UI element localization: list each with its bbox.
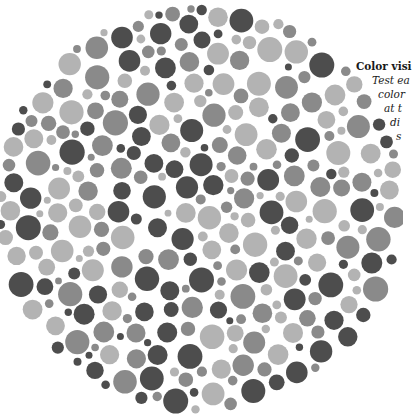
plate-dot bbox=[318, 111, 336, 129]
plate-dot bbox=[294, 256, 303, 265]
plate-dot bbox=[111, 158, 132, 179]
plate-dot bbox=[208, 7, 228, 27]
plate-dot bbox=[380, 136, 393, 149]
plate-dot bbox=[0, 230, 13, 245]
plate-dot bbox=[51, 240, 74, 263]
plate-dot bbox=[224, 398, 237, 411]
plate-dot bbox=[58, 282, 82, 306]
plate-dot bbox=[228, 376, 238, 386]
plate-dot bbox=[89, 285, 107, 303]
plate-dot bbox=[150, 23, 171, 44]
plate-dot bbox=[213, 73, 235, 95]
plate-dot bbox=[113, 370, 137, 394]
plate-dot bbox=[299, 274, 311, 286]
plate-dot bbox=[16, 215, 41, 240]
plate-dot bbox=[103, 110, 128, 135]
plate-dot bbox=[148, 345, 168, 365]
plate-dot bbox=[217, 162, 226, 171]
plate-dot bbox=[261, 284, 273, 296]
plate-dot bbox=[54, 79, 73, 98]
plate-dot bbox=[270, 258, 279, 267]
plate-dot bbox=[83, 246, 94, 257]
plate-dot bbox=[127, 146, 141, 160]
plate-dot bbox=[336, 236, 359, 259]
plate-dot bbox=[213, 261, 222, 270]
plate-dot bbox=[363, 276, 388, 301]
plate-dot bbox=[217, 277, 226, 286]
plate-dot bbox=[295, 127, 320, 152]
plate-dot bbox=[230, 245, 240, 255]
plate-dot bbox=[108, 201, 130, 223]
plate-dot bbox=[361, 253, 382, 274]
plate-dot bbox=[285, 40, 308, 63]
plate-dot bbox=[86, 352, 93, 359]
plate-dot bbox=[174, 114, 183, 123]
plate-dot bbox=[52, 342, 64, 354]
plate-dot bbox=[232, 35, 242, 45]
plate-dot bbox=[352, 173, 371, 192]
plate-dot bbox=[203, 175, 223, 195]
plate-dot bbox=[338, 220, 350, 232]
plate-dot bbox=[247, 72, 271, 96]
plate-dot bbox=[135, 303, 154, 322]
plate-dot bbox=[7, 247, 25, 265]
plate-dot bbox=[72, 171, 84, 183]
plate-dot bbox=[275, 76, 298, 99]
plate-dot bbox=[212, 137, 228, 153]
plate-dot bbox=[308, 292, 321, 305]
plate-dot bbox=[170, 367, 179, 376]
plate-dot bbox=[353, 286, 362, 295]
plate-dot bbox=[42, 224, 58, 240]
plate-dot bbox=[210, 301, 227, 318]
plate-dot bbox=[87, 102, 104, 119]
plate-dot bbox=[347, 115, 370, 138]
plate-dot bbox=[241, 213, 256, 228]
plate-dot bbox=[179, 15, 198, 34]
plate-dot bbox=[384, 207, 403, 228]
plate-dot bbox=[175, 38, 188, 51]
plate-dot bbox=[310, 340, 332, 362]
plate-dot bbox=[100, 345, 119, 364]
plate-dot bbox=[4, 137, 24, 157]
plate-dot bbox=[133, 21, 144, 32]
plate-dot bbox=[189, 267, 214, 292]
plate-dot bbox=[262, 325, 270, 333]
plate-dot bbox=[158, 173, 166, 181]
plate-dot bbox=[155, 11, 162, 18]
plate-dot bbox=[370, 189, 378, 197]
plate-dot bbox=[338, 167, 349, 178]
plate-dot bbox=[313, 199, 337, 223]
plate-dot bbox=[164, 93, 184, 113]
plate-dot bbox=[111, 27, 133, 49]
plate-dot bbox=[241, 379, 265, 403]
plate-dot bbox=[36, 210, 43, 217]
plate-dot bbox=[9, 272, 34, 297]
plate-dot bbox=[214, 30, 223, 39]
plate-dot bbox=[275, 312, 287, 324]
plate-dot bbox=[272, 124, 291, 143]
plate-dot bbox=[269, 374, 285, 390]
plate-dot bbox=[90, 163, 104, 177]
plate-dot bbox=[178, 344, 203, 369]
plate-dot bbox=[257, 362, 271, 376]
plate-dot bbox=[85, 65, 109, 89]
plate-dot bbox=[380, 181, 399, 200]
plate-dot bbox=[137, 35, 146, 44]
plate-dot bbox=[321, 231, 335, 245]
plate-dot bbox=[196, 194, 206, 204]
plate-dot bbox=[194, 95, 206, 107]
plate-dot bbox=[276, 242, 295, 261]
plate-dot bbox=[201, 144, 209, 152]
plate-dot bbox=[134, 171, 148, 185]
plate-dot bbox=[231, 212, 239, 220]
plate-dot bbox=[93, 322, 114, 343]
plate-dot bbox=[145, 154, 164, 173]
plate-dot bbox=[52, 164, 59, 171]
plate-dot bbox=[243, 332, 265, 354]
plate-dot bbox=[358, 225, 367, 234]
plate-dot bbox=[56, 125, 70, 139]
plate-dot bbox=[309, 53, 334, 78]
plate-dot bbox=[373, 118, 385, 130]
plate-dot bbox=[91, 344, 99, 352]
